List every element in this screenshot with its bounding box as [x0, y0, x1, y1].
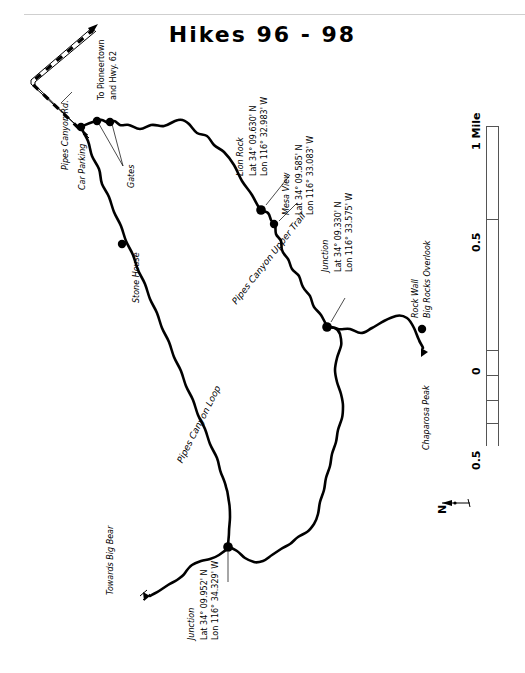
mesa-view-marker[interactable] — [270, 220, 278, 228]
label-mesa-view-lat: Lat 34° 09.585' N — [294, 145, 305, 215]
label-towards-big-bear: Towards Big Bear — [105, 526, 116, 595]
label-to-pioneertown-line2: and Hwy. 62 — [108, 51, 119, 100]
stone-house-marker[interactable] — [118, 240, 126, 248]
trail-network — [81, 120, 423, 596]
label-pipes-canyon-rd: Pipes Canyon Rd. — [60, 100, 71, 170]
label-mesa-view: Mesa View — [281, 172, 292, 215]
label-junction-east-lon: Lon 116° 33.575' W — [344, 193, 355, 272]
label-big-rocks-overlook: Big Rocks Overlook — [422, 241, 433, 318]
scale-bar — [486, 126, 500, 446]
north-arrow-label: N — [436, 505, 449, 514]
leader-gate-2 — [112, 124, 123, 166]
gate-marker-1[interactable] — [93, 117, 101, 125]
label-mesa-view-lon: Lon 116° 33.083' W — [305, 136, 316, 215]
scale-tick-zero: 0 — [470, 367, 483, 375]
label-to-pioneertown-line1: To Pioneertown — [96, 39, 107, 100]
map-page: Hikes 96 - 98 — [0, 0, 525, 673]
leader-junction-east — [331, 298, 345, 322]
label-junction-east-lat: Lat 34° 09.330' N — [333, 202, 344, 272]
scale-tick-half-lower: 0.5 — [470, 451, 483, 471]
scale-tick-1-mile: 1 Mile — [470, 113, 483, 150]
scale-tick-half-upper: 0.5 — [470, 233, 483, 253]
junction-south-marker[interactable] — [223, 542, 233, 552]
label-car-parking: Car Parking — [77, 144, 88, 190]
label-chaparosa-peak: Chaparosa Peak — [421, 385, 432, 450]
big-bear-arrow — [140, 590, 150, 601]
label-stone-house: Stone House — [131, 252, 142, 303]
chaparosa-peak-marker — [421, 348, 428, 357]
label-rock-wall: Rock Wall — [410, 279, 421, 318]
label-gates: Gates — [126, 165, 137, 188]
gate-marker-2[interactable] — [106, 118, 114, 126]
leader-gate-1 — [99, 124, 123, 166]
label-junction-south-lat: Lat 34° 09.952' N — [199, 570, 210, 640]
lion-rock-marker[interactable] — [256, 205, 266, 215]
label-junction-east: Junction — [320, 240, 331, 272]
rock-wall-marker[interactable] — [418, 325, 426, 333]
label-lion-rock-lon: Lon 116° 32.983' W — [259, 97, 270, 176]
label-junction-south-lon: Lon 116° 34.329' W — [210, 561, 221, 640]
label-lion-rock: Lion Rock — [235, 137, 246, 176]
label-junction-south: Junction — [186, 608, 197, 640]
label-lion-rock-lat: Lat 34° 09.630' N — [248, 106, 259, 176]
junction-east-marker[interactable] — [322, 322, 332, 332]
car-parking-marker[interactable] — [77, 123, 85, 131]
